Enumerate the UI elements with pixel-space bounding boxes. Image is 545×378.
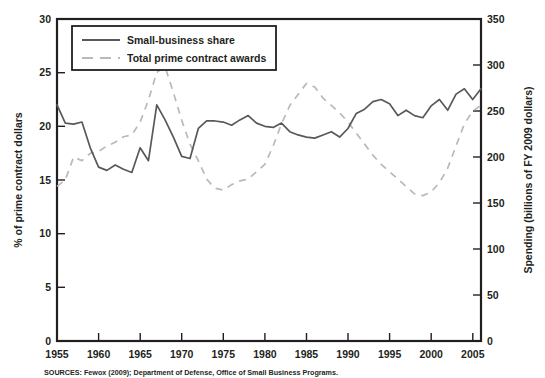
left-tick-15: 15 <box>39 174 51 186</box>
right-tick-150: 150 <box>487 197 505 209</box>
right-tick-300: 300 <box>487 59 505 71</box>
x-tick-2005: 2005 <box>461 348 485 360</box>
x-tick-1995: 1995 <box>378 348 402 360</box>
legend-label-small-business-share: Small-business share <box>127 34 235 46</box>
right-tick-0: 0 <box>487 335 493 347</box>
x-tick-1985: 1985 <box>295 348 319 360</box>
left-tick-25: 25 <box>39 66 51 78</box>
chart-legend: Small-business share Total prime contrac… <box>72 26 276 70</box>
right-axis-tick-labels: 0 50 100 150 200 250 300 350 <box>487 13 505 347</box>
left-axis-title: % of prime contract dollars <box>12 112 24 248</box>
x-tick-1975: 1975 <box>212 348 236 360</box>
series-total-prime-contract-awards <box>57 67 481 196</box>
left-tick-10: 10 <box>39 227 51 239</box>
x-tick-1960: 1960 <box>87 348 111 360</box>
left-axis-tick-labels: 0 5 10 15 20 25 30 <box>39 13 51 347</box>
x-tick-1965: 1965 <box>129 348 153 360</box>
left-tick-30: 30 <box>39 13 51 25</box>
right-axis-title: Spending (billions of FY 2009 dollars) <box>522 86 534 273</box>
left-tick-5: 5 <box>45 281 51 293</box>
right-tick-50: 50 <box>487 289 499 301</box>
right-tick-250: 250 <box>487 105 505 117</box>
source-note: SOURCES: Fewox (2009); Department of Def… <box>44 368 338 377</box>
bottom-axis-ticks <box>57 333 473 341</box>
right-axis-ticks <box>473 19 481 341</box>
right-tick-350: 350 <box>487 13 505 25</box>
x-tick-1955: 1955 <box>45 348 69 360</box>
line-chart: 0 5 10 15 20 25 30 % of prime contract d… <box>0 0 545 378</box>
bottom-axis-tick-labels: 1955 1960 1965 1970 1975 1980 1985 1990 … <box>45 348 484 360</box>
x-tick-1990: 1990 <box>336 348 360 360</box>
right-tick-100: 100 <box>487 243 505 255</box>
legend-label-total-prime-contract-awards: Total prime contract awards <box>127 52 266 64</box>
right-tick-200: 200 <box>487 151 505 163</box>
left-axis-ticks <box>57 19 65 341</box>
series-small-business-share <box>57 89 481 173</box>
x-tick-1970: 1970 <box>170 348 194 360</box>
left-tick-20: 20 <box>39 120 51 132</box>
x-tick-2000: 2000 <box>420 348 444 360</box>
chart-figure: 0 5 10 15 20 25 30 % of prime contract d… <box>0 0 545 378</box>
x-tick-1980: 1980 <box>253 348 277 360</box>
left-tick-0: 0 <box>45 335 51 347</box>
